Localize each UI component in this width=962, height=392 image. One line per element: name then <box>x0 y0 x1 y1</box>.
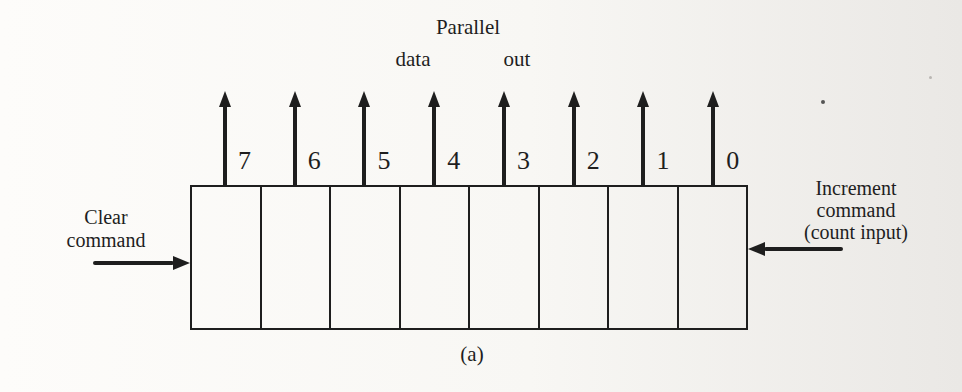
bit-number-label: 0 <box>726 148 739 174</box>
scanned-page: Parallel data out 76543210 Clear command… <box>0 0 962 392</box>
bit-number-label: 4 <box>447 148 460 174</box>
register-cell-bit-4 <box>399 187 469 328</box>
increment-command-label-line1: Increment <box>775 177 937 199</box>
counter-register-box <box>190 185 748 330</box>
data-out-arrow-head-bit-7 <box>219 91 231 107</box>
register-cell-bit-0 <box>677 187 747 328</box>
clear-command-arrow-shaft <box>93 261 174 265</box>
bit-number-label: 3 <box>517 148 530 174</box>
data-out-arrow-shaft-bit-7 <box>223 106 227 185</box>
scan-speck <box>821 100 825 104</box>
data-out-arrow-shaft-bit-4 <box>432 106 436 185</box>
data-out-arrow-shaft-bit-3 <box>502 106 506 185</box>
data-out-arrow-shaft-bit-6 <box>293 106 297 185</box>
clear-command-label-line1: Clear <box>26 206 186 229</box>
data-out-arrow-shaft-bit-5 <box>362 106 366 185</box>
data-out-arrow-head-bit-6 <box>289 91 301 107</box>
register-cell-bit-7 <box>192 187 260 328</box>
data-out-arrow-head-bit-0 <box>707 91 719 107</box>
increment-command-label-line3: (count input) <box>775 221 937 243</box>
data-out-arrow-head-bit-4 <box>428 91 440 107</box>
data-out-arrow-head-bit-5 <box>358 91 370 107</box>
scan-speck <box>929 76 932 79</box>
parallel-out-label-out: out <box>504 49 531 70</box>
increment-command-arrow-head <box>748 242 765 256</box>
register-cell-bit-3 <box>468 187 538 328</box>
register-cell-bit-2 <box>538 187 608 328</box>
parallel-out-label-data: data <box>396 49 431 70</box>
increment-command-arrow-shaft <box>764 247 843 251</box>
clear-command-label-line2: command <box>26 229 186 252</box>
register-cell-bit-6 <box>260 187 330 328</box>
data-out-arrow-shaft-bit-0 <box>711 106 715 185</box>
increment-command-label: Increment command (count input) <box>775 177 937 243</box>
register-cell-bit-1 <box>607 187 677 328</box>
data-out-arrow-shaft-bit-2 <box>572 106 576 185</box>
increment-command-label-line2: command <box>775 199 937 221</box>
parallel-out-label-line1: Parallel <box>436 17 500 38</box>
bit-number-label: 7 <box>238 148 251 174</box>
figure-caption: (a) <box>460 344 483 365</box>
clear-command-label: Clear command <box>26 206 186 252</box>
data-out-arrow-head-bit-3 <box>498 91 510 107</box>
data-out-arrow-shaft-bit-1 <box>641 106 645 185</box>
clear-command-arrow-head <box>173 256 190 270</box>
bit-number-label: 2 <box>587 148 600 174</box>
data-out-arrow-head-bit-1 <box>637 91 649 107</box>
register-cell-bit-5 <box>329 187 399 328</box>
bit-number-label: 5 <box>377 148 390 174</box>
data-out-arrow-head-bit-2 <box>568 91 580 107</box>
bit-number-label: 1 <box>656 148 669 174</box>
bit-number-label: 6 <box>308 148 321 174</box>
